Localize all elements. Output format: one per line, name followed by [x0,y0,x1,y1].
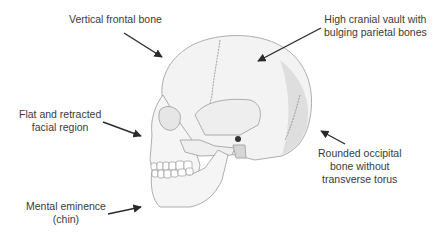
arrow-occipital [321,131,345,144]
label-mental-eminence: Mental eminence (chin) [26,200,106,226]
label-rounded-occipital-bone: Rounded occipital bone without transvers… [318,147,401,186]
ear-opening [235,136,241,142]
orbit [159,107,181,131]
label-flat-retracted-facial-region: Flat and retracted facial region [19,108,101,134]
label-vertical-frontal-bone: Vertical frontal bone [69,13,162,26]
arrow-frontal [124,33,162,57]
arrow-chin [108,207,141,214]
skull-illustration [150,36,312,207]
label-high-cranial-vault: High cranial vault with bulging parietal… [324,13,427,39]
arrow-facial [103,122,141,136]
